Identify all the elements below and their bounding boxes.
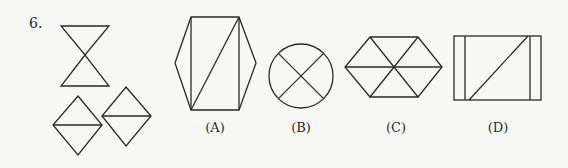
option-d-label[interactable]: (D)	[488, 120, 509, 135]
option-c-figure[interactable]	[345, 37, 442, 97]
option-b-figure[interactable]	[269, 44, 333, 108]
option-c-label[interactable]: (C)	[386, 120, 406, 135]
option-b-label[interactable]: (B)	[291, 120, 311, 135]
option-a-label[interactable]: (A)	[205, 120, 225, 135]
option-a-figure[interactable]	[175, 17, 256, 110]
diamond-figure-right	[102, 87, 151, 146]
diamond-figure-left	[53, 96, 102, 155]
figures-canvas	[0, 0, 568, 168]
hourglass-figure	[61, 26, 109, 86]
option-d-figure[interactable]	[454, 36, 541, 100]
